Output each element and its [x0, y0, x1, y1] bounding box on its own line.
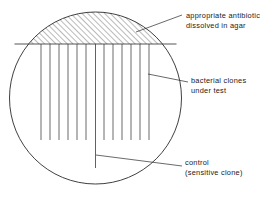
label-clones-line2: under test — [191, 86, 246, 96]
leader-line-antibiotic — [136, 15, 182, 32]
leader-line-control — [96, 155, 182, 166]
label-bacterial-clones: bacterial clones under test — [191, 76, 246, 95]
label-antibiotic-line2: dissolved in agar — [186, 21, 260, 31]
label-control-line2: (sensitive clone) — [185, 168, 243, 178]
bacterial-streak-group — [41, 44, 149, 140]
label-control: control (sensitive clone) — [185, 158, 243, 177]
leader-line-clones — [148, 74, 188, 82]
label-clones-line1: bacterial clones — [191, 76, 246, 86]
label-control-line1: control — [185, 158, 243, 168]
diagram-canvas: appropriate antibiotic dissolved in agar… — [0, 0, 276, 200]
label-antibiotic-line1: appropriate antibiotic — [186, 11, 260, 21]
label-antibiotic: appropriate antibiotic dissolved in agar — [186, 11, 260, 30]
